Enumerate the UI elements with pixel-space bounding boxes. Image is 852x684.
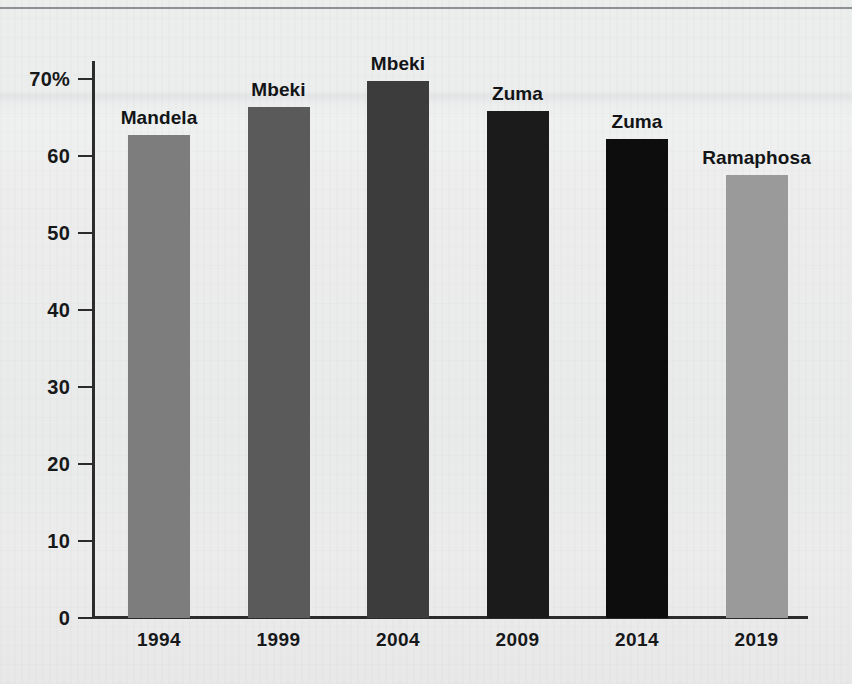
x-axis-label-1999: 1999	[257, 630, 301, 649]
bar-label-2004: Mbeki	[371, 54, 425, 73]
y-tick-40	[78, 309, 92, 311]
y-tick-0	[78, 617, 92, 619]
y-tick-label: 0	[0, 608, 70, 628]
bar-2004[interactable]	[367, 81, 429, 618]
bar-2019[interactable]	[726, 175, 788, 618]
y-axis-line	[92, 61, 95, 619]
y-tick-20	[78, 463, 92, 465]
y-tick-60	[78, 155, 92, 157]
bar-1999[interactable]	[248, 107, 310, 618]
chart-page: 010203040506070% Mandela1994Mbeki1999Mbe…	[0, 0, 852, 684]
bar-2009[interactable]	[487, 111, 549, 618]
y-tick-label: 60	[0, 146, 70, 166]
y-tick-label: 20	[0, 454, 70, 474]
bar-label-2014: Zuma	[611, 112, 662, 131]
x-axis-label-1994: 1994	[137, 630, 181, 649]
y-tick-30	[78, 386, 92, 388]
x-axis-label-2014: 2014	[615, 630, 659, 649]
x-axis-label-2004: 2004	[376, 630, 420, 649]
y-tick-label: 50	[0, 223, 70, 243]
y-tick-70	[78, 78, 92, 80]
x-axis-label-2009: 2009	[496, 630, 540, 649]
bar-label-2019: Ramaphosa	[702, 148, 811, 167]
bar-label-1994: Mandela	[121, 108, 198, 127]
bar-2014[interactable]	[606, 139, 668, 618]
y-tick-label: 40	[0, 300, 70, 320]
bar-label-2009: Zuma	[492, 84, 543, 103]
y-tick-label: 70%	[0, 69, 70, 89]
y-tick-label: 30	[0, 377, 70, 397]
bar-chart: 010203040506070% Mandela1994Mbeki1999Mbe…	[0, 0, 852, 684]
bar-1994[interactable]	[128, 135, 190, 618]
y-tick-10	[78, 540, 92, 542]
y-tick-50	[78, 232, 92, 234]
y-tick-label: 10	[0, 531, 70, 551]
bar-label-1999: Mbeki	[251, 80, 305, 99]
x-axis-label-2019: 2019	[735, 630, 779, 649]
x-axis-line	[92, 616, 808, 619]
